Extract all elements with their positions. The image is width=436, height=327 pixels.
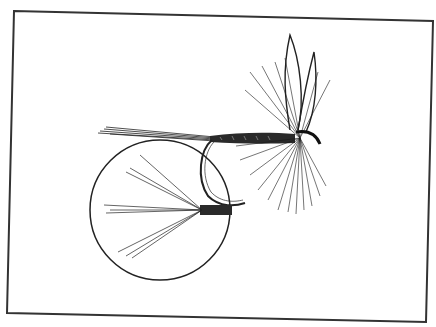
fly-hook bbox=[201, 140, 245, 205]
fly-illustration bbox=[0, 0, 436, 327]
fly-body bbox=[210, 133, 295, 144]
picture-frame bbox=[7, 11, 433, 322]
inset-body bbox=[200, 205, 232, 215]
inset-fibres bbox=[104, 155, 202, 258]
fly-tail bbox=[98, 127, 215, 141]
